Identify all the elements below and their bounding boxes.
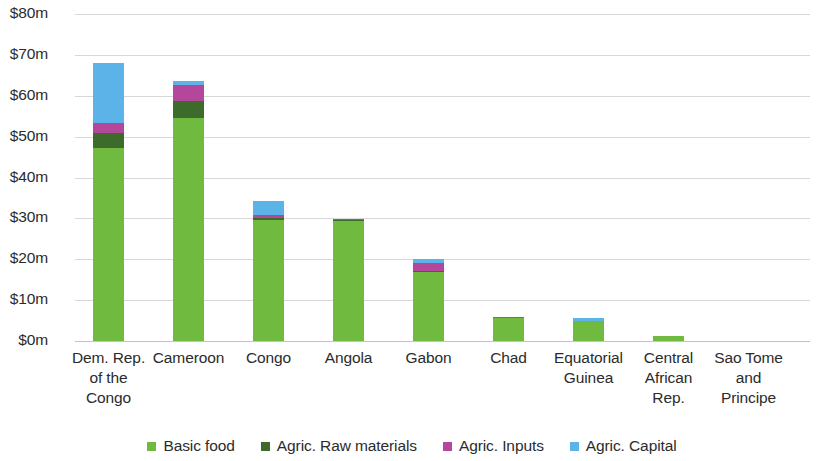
- legend-swatch-icon: [443, 442, 452, 451]
- x-axis-label: Congo: [226, 348, 312, 368]
- bar-segment[interactable]: [173, 118, 204, 341]
- x-axis-label: Gabon: [386, 348, 472, 368]
- legend-item[interactable]: Agric. Inputs: [443, 437, 544, 455]
- bar-segment[interactable]: [93, 148, 124, 341]
- x-axis-label: Sao TomeandPrincipe: [706, 348, 792, 408]
- x-axis-label-line: Guinea: [546, 368, 632, 388]
- bar-group[interactable]: [573, 14, 604, 341]
- chart-legend: Basic foodAgric. Raw materialsAgric. Inp…: [0, 437, 824, 455]
- y-axis-tick-label: $10m: [0, 290, 48, 308]
- stacked-bar-chart: $0m$10m$20m$30m$40m$50m$60m$70m$80m Dem.…: [0, 0, 824, 461]
- bar-segment[interactable]: [93, 63, 124, 123]
- y-axis-tick-label: $60m: [0, 86, 48, 104]
- x-axis-label-line: Dem. Rep.: [66, 348, 152, 368]
- x-axis-label-line: Gabon: [386, 348, 472, 368]
- bar-group[interactable]: [733, 14, 764, 341]
- x-axis-label-line: Congo: [226, 348, 312, 368]
- gridline: [75, 341, 810, 342]
- y-axis-tick-label: $80m: [0, 4, 48, 22]
- legend-swatch-icon: [261, 442, 270, 451]
- bar-segment[interactable]: [253, 201, 284, 214]
- bar-stack[interactable]: [573, 318, 604, 341]
- bar-segment[interactable]: [93, 123, 124, 133]
- y-axis-tick-label: $40m: [0, 168, 48, 186]
- x-axis-label: Dem. Rep.of theCongo: [66, 348, 152, 408]
- bar-stack[interactable]: [253, 201, 284, 341]
- bar-stack[interactable]: [173, 81, 204, 341]
- x-axis-label-line: African: [626, 368, 712, 388]
- x-axis-label-line: of the: [66, 368, 152, 388]
- legend-swatch-icon: [147, 442, 156, 451]
- y-axis-tick-label: $0m: [0, 331, 48, 349]
- bar-group[interactable]: [173, 14, 204, 341]
- bar-segment[interactable]: [653, 336, 684, 341]
- x-axis-label: Cameroon: [146, 348, 232, 368]
- legend-label: Basic food: [163, 437, 234, 455]
- y-axis-tick-label: $50m: [0, 127, 48, 145]
- bar-segment[interactable]: [333, 221, 364, 341]
- x-axis-label: Chad: [466, 348, 552, 368]
- bar-group[interactable]: [413, 14, 444, 341]
- x-axis-label: CentralAfricanRep.: [626, 348, 712, 408]
- bar-stack[interactable]: [493, 317, 524, 341]
- bar-group[interactable]: [253, 14, 284, 341]
- bar-segment[interactable]: [93, 133, 124, 148]
- x-axis-label-line: Angola: [306, 348, 392, 368]
- bar-group[interactable]: [93, 14, 124, 341]
- bar-segment[interactable]: [173, 101, 204, 118]
- legend-item[interactable]: Basic food: [147, 437, 234, 455]
- bars-layer: [75, 14, 810, 341]
- bar-segment[interactable]: [413, 272, 444, 341]
- x-axis-label: EquatorialGuinea: [546, 348, 632, 388]
- bar-stack[interactable]: [653, 336, 684, 341]
- legend-label: Agric. Inputs: [459, 437, 544, 455]
- x-axis-label-line: Principe: [706, 388, 792, 408]
- bar-segment[interactable]: [573, 321, 604, 341]
- bar-segment[interactable]: [413, 263, 444, 271]
- legend-label: Agric. Raw materials: [277, 437, 417, 455]
- x-axis-label-line: and: [706, 368, 792, 388]
- y-axis-tick-label: $20m: [0, 249, 48, 267]
- x-axis-label-line: Sao Tome: [706, 348, 792, 368]
- bar-segment[interactable]: [253, 220, 284, 341]
- x-axis-labels: Dem. Rep.of theCongoCameroonCongoAngolaG…: [75, 348, 810, 428]
- bar-segment[interactable]: [173, 85, 204, 101]
- bar-group[interactable]: [493, 14, 524, 341]
- legend-item[interactable]: Agric. Raw materials: [261, 437, 417, 455]
- x-axis-label-line: Rep.: [626, 388, 712, 408]
- x-axis-label: Angola: [306, 348, 392, 368]
- legend-swatch-icon: [570, 442, 579, 451]
- legend-item[interactable]: Agric. Capital: [570, 437, 677, 455]
- bar-group[interactable]: [653, 14, 684, 341]
- y-axis-tick-label: $30m: [0, 208, 48, 226]
- bar-group[interactable]: [333, 14, 364, 341]
- legend-label: Agric. Capital: [586, 437, 677, 455]
- x-axis-label-line: Equatorial: [546, 348, 632, 368]
- x-axis-label-line: Central: [626, 348, 712, 368]
- bar-segment[interactable]: [493, 318, 524, 341]
- x-axis-label-line: Congo: [66, 388, 152, 408]
- y-axis-tick-label: $70m: [0, 45, 48, 63]
- bar-stack[interactable]: [93, 63, 124, 341]
- bar-stack[interactable]: [333, 219, 364, 341]
- bar-stack[interactable]: [413, 259, 444, 341]
- x-axis-label-line: Chad: [466, 348, 552, 368]
- x-axis-label-line: Cameroon: [146, 348, 232, 368]
